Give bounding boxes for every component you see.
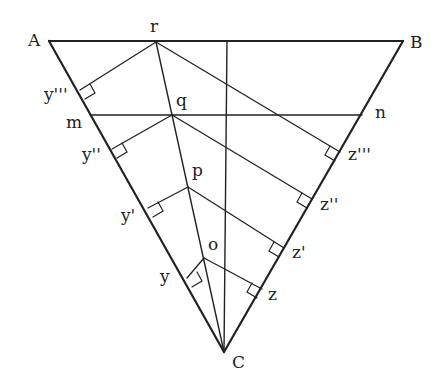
- label-r: r: [150, 18, 158, 35]
- perp-q-z2: [172, 115, 312, 199]
- label-z0: z: [268, 286, 277, 303]
- side-ac: [49, 41, 224, 352]
- label-a: A: [28, 32, 40, 49]
- label-p: p: [192, 162, 203, 179]
- label-z1: z': [292, 244, 306, 261]
- label-o: o: [208, 236, 218, 253]
- perp-p-y1: [148, 187, 188, 208]
- diagram-canvas: [0, 0, 440, 389]
- perp-r-y3: [80, 42, 156, 90]
- geometry-diagram: A B C r q p o m n y''' y'' y' y z''' z''…: [0, 0, 440, 389]
- label-n: n: [375, 104, 386, 121]
- label-y0: y: [160, 268, 170, 285]
- perp-o-z0: [204, 258, 262, 289]
- vertical-line: [224, 41, 227, 352]
- label-c: C: [232, 354, 245, 371]
- label-y3: y''': [44, 86, 68, 103]
- label-b: B: [410, 34, 423, 51]
- perp-q-y2: [112, 115, 172, 149]
- label-y2: y'': [82, 146, 101, 163]
- right-angle-marks-bc: [247, 146, 335, 298]
- label-m: m: [66, 114, 82, 131]
- label-q: q: [176, 92, 187, 109]
- cevian-rc: [156, 42, 224, 352]
- side-bc: [224, 41, 403, 352]
- label-z2: z'': [320, 196, 338, 213]
- label-z3: z''': [348, 146, 371, 163]
- perp-o-y0: [187, 258, 204, 278]
- label-y1: y': [121, 207, 135, 224]
- perp-p-z1: [188, 187, 284, 248]
